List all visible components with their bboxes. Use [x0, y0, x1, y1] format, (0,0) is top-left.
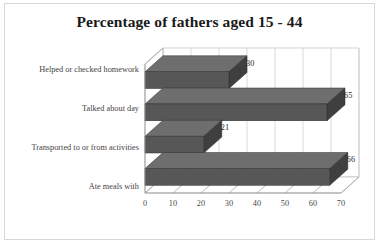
bar: [145, 88, 345, 121]
plot-svg: [143, 42, 371, 207]
bar: [145, 56, 247, 89]
x-tick-label: 70: [329, 199, 353, 208]
bar-front-face: [145, 104, 327, 121]
x-tick-label: 0: [133, 199, 157, 208]
x-tick-label: 50: [273, 199, 297, 208]
category-label-1: Talked about day: [8, 104, 139, 114]
bar: [145, 152, 348, 185]
bar-value-label: 66: [347, 155, 355, 164]
category-label-2: Transported to or from activities: [8, 143, 139, 153]
chart-figure: Percentage of fathers aged 15 - 44 Helpe…: [0, 0, 379, 244]
bar-front-face: [145, 72, 229, 89]
x-tick-label: 30: [217, 199, 241, 208]
bar-top-face: [145, 152, 348, 168]
bar-value-label: 21: [221, 123, 229, 132]
bar-top-face: [145, 88, 345, 104]
x-tick-label: 10: [161, 199, 185, 208]
category-label-0: Helped or checked homework: [8, 65, 139, 75]
x-tick-label: 40: [245, 199, 269, 208]
bar-value-label: 65: [344, 91, 352, 100]
bar-front-face: [145, 136, 204, 153]
plot-area: [143, 42, 371, 207]
x-tick-label: 20: [189, 199, 213, 208]
category-label-3: Ate meals with: [8, 182, 139, 192]
x-tick-label: 60: [301, 199, 325, 208]
page-title: Percentage of fathers aged 15 - 44: [0, 13, 379, 31]
bar-front-face: [145, 168, 330, 185]
bar-value-label: 30: [246, 59, 254, 68]
